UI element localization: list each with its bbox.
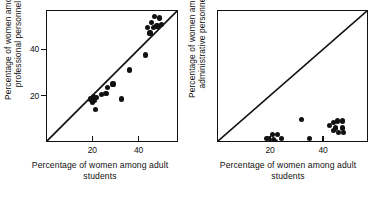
x-axis-tick-label: 20: [88, 145, 97, 155]
data-point: [127, 67, 132, 72]
data-point: [157, 15, 162, 20]
panel-left: 20402040 Percentage of women among profe…: [0, 0, 190, 207]
x-axis-title-right: Percentage of women among adult students: [198, 160, 378, 182]
plot-area-right: [218, 11, 367, 141]
x-axis-tick: [92, 136, 93, 142]
data-point: [110, 81, 115, 86]
data-point: [119, 96, 124, 101]
x-axis-tick-label: 40: [318, 145, 327, 155]
data-point: [272, 139, 277, 141]
plot-frame-right: [217, 10, 368, 142]
x-axis-tick: [138, 136, 139, 142]
scatter-plot-figure: 20402040 Percentage of women among profe…: [0, 0, 381, 207]
x-axis-tick-label: 20: [265, 145, 274, 155]
x-axis-tick: [322, 136, 323, 142]
panel-right: 2040 Percentage of women among administr…: [190, 0, 381, 207]
data-point: [147, 30, 152, 35]
identity-reference-line: [47, 11, 177, 141]
y-axis-tick-label: 20: [21, 91, 39, 101]
y-axis-tick-label: 40: [21, 44, 39, 54]
x-axis-tick-label: 40: [134, 145, 143, 155]
y-axis-title-right: Percentage of women among administrative…: [187, 0, 207, 102]
data-point: [307, 136, 312, 141]
y-axis-title-left: Percentage of women among professional p…: [3, 0, 23, 104]
x-axis-title-left: Percentage of women among adult students: [20, 160, 180, 182]
data-point: [143, 52, 148, 57]
plot-area-left: [47, 11, 177, 141]
y-axis-tick: [41, 49, 47, 50]
plot-frame-left: [46, 10, 178, 142]
data-point: [105, 85, 110, 90]
x-axis-tick: [269, 136, 270, 142]
data-point: [340, 118, 345, 123]
data-point: [103, 91, 108, 96]
y-axis-tick: [41, 95, 47, 96]
